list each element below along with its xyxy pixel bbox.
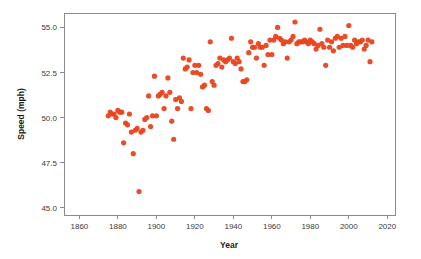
data-point	[169, 119, 174, 124]
data-point	[327, 45, 332, 50]
data-point	[188, 106, 193, 111]
data-point	[127, 111, 132, 116]
data-point	[196, 63, 201, 68]
data-point	[285, 55, 290, 60]
x-tick-label: 2000	[340, 222, 358, 231]
y-tick-label: 52.5	[41, 69, 57, 78]
x-tick-label: 2020	[378, 222, 396, 231]
data-point	[202, 83, 207, 88]
data-point	[252, 45, 257, 50]
data-point	[144, 115, 149, 120]
data-point	[331, 48, 336, 53]
y-tick-label: 45.0	[41, 204, 57, 213]
data-point	[262, 63, 267, 68]
data-point	[208, 39, 213, 44]
data-point	[346, 23, 351, 28]
data-point	[323, 63, 328, 68]
chart-background	[0, 0, 421, 259]
scatter-chart: 186018801900192019401960198020002020 45.…	[0, 0, 421, 259]
data-point	[167, 90, 172, 95]
data-point	[171, 137, 176, 142]
data-point	[237, 59, 242, 64]
data-point	[212, 83, 217, 88]
data-point	[161, 106, 166, 111]
y-tick-label: 50.0	[41, 114, 57, 123]
data-point	[136, 189, 141, 194]
data-point	[290, 34, 295, 39]
data-point	[350, 45, 355, 50]
data-point	[121, 140, 126, 145]
x-tick-label: 1920	[186, 222, 204, 231]
data-point	[342, 34, 347, 39]
data-point	[244, 77, 249, 82]
data-point	[148, 124, 153, 129]
data-point	[185, 65, 190, 70]
data-point	[186, 57, 191, 62]
data-point	[175, 106, 180, 111]
data-point	[119, 110, 124, 115]
data-point	[163, 93, 168, 98]
data-point	[179, 99, 184, 104]
chart-canvas: 186018801900192019401960198020002020 45.…	[0, 0, 421, 259]
data-point	[269, 52, 274, 57]
data-point	[227, 55, 232, 60]
x-tick-label: 1860	[70, 222, 88, 231]
y-tick-label: 47.5	[41, 159, 57, 168]
data-point	[238, 66, 243, 71]
x-tick-label: 1980	[301, 222, 319, 231]
data-point	[160, 90, 165, 95]
data-point	[125, 122, 130, 127]
x-tick-label: 1880	[109, 222, 127, 231]
data-point	[154, 113, 159, 118]
data-point	[181, 55, 186, 60]
data-point	[135, 126, 140, 131]
data-point	[248, 39, 253, 44]
data-point	[263, 43, 268, 48]
data-point	[329, 39, 334, 44]
data-point	[275, 25, 280, 30]
data-point	[206, 108, 211, 113]
x-axis-tick-labels: 186018801900192019401960198020002020	[70, 222, 396, 231]
data-point	[152, 74, 157, 79]
data-point	[198, 72, 203, 77]
y-tick-label: 55.0	[41, 23, 57, 32]
data-point	[317, 27, 322, 32]
data-point	[360, 37, 365, 42]
data-point	[140, 128, 145, 133]
x-tick-label: 1900	[147, 222, 165, 231]
data-point	[165, 75, 170, 80]
data-point	[364, 43, 369, 48]
data-point	[254, 55, 259, 60]
y-axis-title: Speed (mph)	[16, 88, 26, 140]
data-point	[215, 61, 220, 66]
x-axis-title: Year	[220, 240, 239, 250]
data-point	[219, 65, 224, 70]
data-point	[113, 115, 118, 120]
data-point	[229, 36, 234, 41]
data-point	[369, 39, 374, 44]
data-point	[246, 50, 251, 55]
data-point	[321, 45, 326, 50]
x-tick-label: 1940	[224, 222, 242, 231]
data-point	[131, 151, 136, 156]
data-point	[146, 93, 151, 98]
data-point	[367, 59, 372, 64]
data-point	[292, 19, 297, 24]
x-tick-label: 1960	[263, 222, 281, 231]
